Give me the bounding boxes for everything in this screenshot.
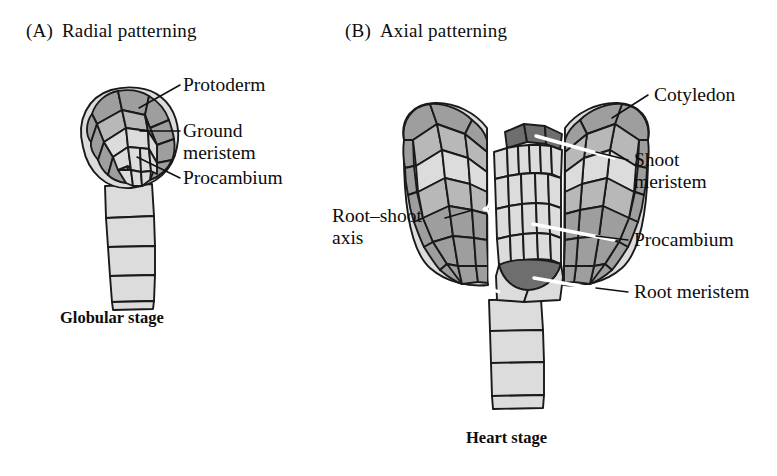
globular-stage-embryo: [81, 87, 178, 310]
label-root-shoot-axis: Root–shoot axis: [332, 205, 452, 248]
label-cotyledon: Cotyledon: [654, 84, 735, 105]
label-ground-meristem-line1: Ground: [183, 120, 243, 141]
label-shoot-meristem-line2: meristem: [634, 171, 707, 192]
label-procambium-a: Procambium: [183, 167, 283, 188]
suspensor-stalk: [105, 184, 155, 310]
left-cotyledon: [403, 103, 488, 286]
globular-body: [81, 87, 178, 188]
label-root-shoot-axis-line2: axis: [332, 227, 363, 248]
label-ground-meristem-line2: meristem: [183, 142, 256, 163]
central-axis-procambium: [494, 124, 563, 302]
suspensor-stalk-heart: [489, 299, 544, 409]
label-shoot-meristem-line1: Shoot: [634, 149, 680, 170]
embryo-development-figure: (A)Radial patterning (B)Axial patterning…: [0, 0, 777, 476]
label-ground-meristem: Ground meristem: [183, 120, 323, 163]
label-root-shoot-axis-line1: Root–shoot: [332, 205, 422, 226]
label-protoderm: Protoderm: [183, 74, 265, 95]
label-procambium-b: Procambium: [634, 229, 734, 250]
shoot-meristem-cell-mid: [524, 124, 546, 144]
label-shoot-meristem: Shoot meristem: [634, 149, 764, 192]
heart-stage-embryo: [403, 103, 648, 409]
right-cotyledon: [564, 103, 649, 286]
caption-globular-stage: Globular stage: [60, 308, 164, 328]
label-root-meristem: Root meristem: [634, 281, 749, 302]
caption-heart-stage: Heart stage: [466, 428, 547, 448]
